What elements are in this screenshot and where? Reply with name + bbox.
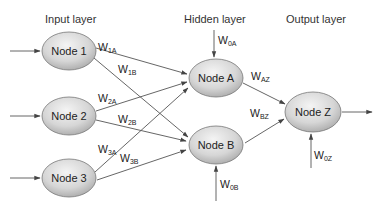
hidden-layer-label: Hidden layer	[184, 13, 246, 25]
input-layer-label: Input layer	[45, 13, 97, 25]
node-1-label: Node 1	[51, 45, 86, 57]
weight-2A: W2A	[98, 92, 117, 105]
weight-3A: W3A	[98, 143, 117, 156]
node-Z-label: Node Z	[295, 106, 331, 118]
node-B: Node B	[189, 126, 243, 164]
node-Z: Node Z	[285, 92, 341, 132]
edge-2A	[96, 82, 187, 111]
node-2-label: Node 2	[51, 110, 86, 122]
node-A-label: Node A	[198, 72, 235, 84]
weight-2B: W2B	[118, 113, 137, 126]
weight-AZ: WAZ	[251, 70, 271, 83]
node-1: Node 1	[42, 32, 96, 70]
weight-0B: W0B	[220, 178, 239, 191]
node-2: Node 2	[42, 97, 96, 135]
weight-BZ: WBZ	[250, 107, 270, 120]
node-A: Node A	[189, 59, 243, 97]
node-B-label: Node B	[198, 139, 235, 151]
neural-network-diagram: Input layer Hidden layer Output layer No…	[0, 0, 385, 211]
edge-AZ	[243, 83, 285, 104]
node-3-label: Node 3	[51, 172, 86, 184]
weight-0Z: W0Z	[314, 149, 333, 162]
edge-BZ	[245, 119, 284, 143]
node-3: Node 3	[42, 159, 96, 197]
output-layer-label: Output layer	[286, 13, 346, 25]
weight-0A: W0A	[218, 34, 237, 47]
weight-1A: W1A	[98, 41, 117, 54]
weight-3B: W3B	[120, 152, 139, 165]
weight-1B: W1B	[118, 63, 137, 76]
